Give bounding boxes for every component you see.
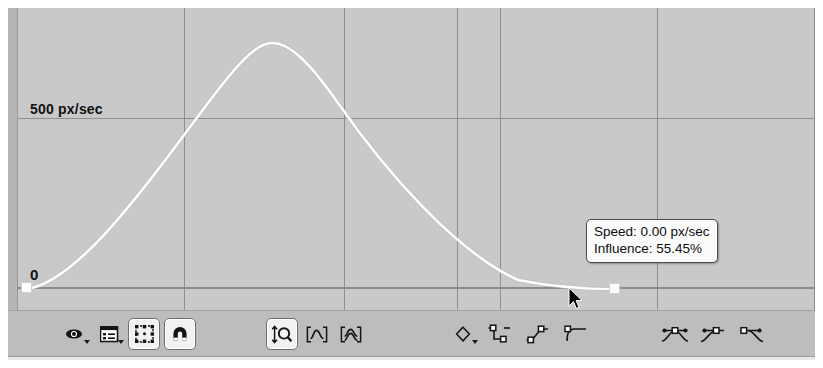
keyframe-handle-start[interactable] xyxy=(21,282,32,293)
transform-box-icon xyxy=(135,325,154,343)
speed-curve[interactable] xyxy=(8,8,815,310)
auto-zoom-height-button[interactable] xyxy=(266,318,298,350)
tooltip-speed-line: Speed: 0.00 px/sec xyxy=(594,223,710,240)
graph-editor-window: 500 px/sec 0 Speed: 0.00 px/sec Influenc… xyxy=(0,0,823,368)
toolbar-group-fit xyxy=(266,316,370,352)
keyframe-info-tooltip: Speed: 0.00 px/sec Influence: 55.45% xyxy=(586,219,718,263)
mouse-cursor-pointer xyxy=(568,287,584,310)
chevron-down-icon xyxy=(118,340,124,344)
chevron-down-icon xyxy=(84,340,90,344)
magnifier-vertical-icon xyxy=(271,325,293,344)
toolbar-group-keyframe-interpolation xyxy=(448,316,596,352)
snap-button[interactable] xyxy=(164,318,196,350)
easy-ease-in-button[interactable] xyxy=(696,319,730,349)
eye-icon xyxy=(65,327,85,341)
chevron-down-icon xyxy=(472,340,478,344)
linear-keyframe-button[interactable] xyxy=(520,319,554,349)
toolbar-group-easy-ease xyxy=(658,316,772,352)
fit-selection-button[interactable] xyxy=(302,319,332,349)
diamond-icon xyxy=(454,325,472,343)
keyframe-handle-end[interactable] xyxy=(609,283,620,294)
choose-graph-type-button[interactable] xyxy=(60,319,90,349)
double-curve-bracket-icon xyxy=(340,326,362,343)
easy-ease-button[interactable] xyxy=(658,319,692,349)
toolbar-bottom-divider xyxy=(8,356,815,360)
y-axis-label-500: 500 px/sec xyxy=(30,101,103,117)
show-properties-button[interactable] xyxy=(94,319,124,349)
auto-bezier-icon xyxy=(562,324,588,344)
graph-editor-toolbar xyxy=(8,310,815,357)
magnet-icon xyxy=(171,325,189,343)
linear-icon xyxy=(524,324,550,344)
easy-ease-out-icon xyxy=(737,324,765,344)
tooltip-influence-line: Influence: 55.45% xyxy=(594,240,710,257)
show-transform-box-button[interactable] xyxy=(128,318,160,350)
y-axis-label-zero: 0 xyxy=(30,266,39,283)
hold-step-icon xyxy=(486,324,512,344)
fit-all-button[interactable] xyxy=(336,319,366,349)
curve-bracket-icon xyxy=(306,326,328,343)
easy-ease-out-button[interactable] xyxy=(734,319,768,349)
list-icon xyxy=(100,326,119,343)
graph-canvas[interactable]: 500 px/sec 0 Speed: 0.00 px/sec Influenc… xyxy=(8,8,815,310)
edit-selected-keyframe-button[interactable] xyxy=(448,319,478,349)
hold-keyframe-button[interactable] xyxy=(482,319,516,349)
easy-ease-icon xyxy=(660,324,690,344)
toolbar-group-display xyxy=(60,316,200,352)
easy-ease-in-icon xyxy=(699,324,727,344)
auto-bezier-keyframe-button[interactable] xyxy=(558,319,592,349)
